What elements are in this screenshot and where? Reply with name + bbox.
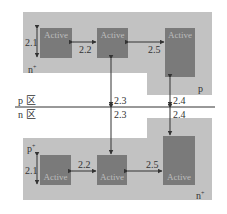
bottom-well-label: p+: [27, 141, 35, 154]
dimension-arrows: [0, 0, 227, 214]
dim-2-2-bottom: 2.2: [78, 160, 91, 170]
dim-2-3-top: 2.3: [114, 96, 127, 106]
dim-2-4-bottom: 2.4: [173, 110, 186, 120]
top-substrate-label: p: [198, 84, 203, 94]
dim-2-1-top: 2.1: [25, 38, 38, 48]
dim-2-3-bottom: 2.3: [114, 110, 127, 120]
bottom-well-sup: +: [32, 143, 35, 149]
top-well-label: n+: [28, 62, 36, 75]
top-well-sup: +: [33, 64, 36, 70]
bottom-substrate-label: n+: [196, 188, 204, 201]
dim-2-5-bottom: 2.5: [146, 160, 159, 170]
dim-2-4-top: 2.4: [173, 96, 186, 106]
dim-2-1-bottom: 2.1: [25, 166, 38, 176]
dim-2-5-top: 2.5: [148, 45, 161, 55]
n-zone-label: n 区: [18, 110, 36, 120]
dim-2-2-top: 2.2: [79, 45, 92, 55]
p-zone-label: p 区: [18, 96, 36, 106]
bottom-substrate-sup: +: [201, 190, 204, 196]
